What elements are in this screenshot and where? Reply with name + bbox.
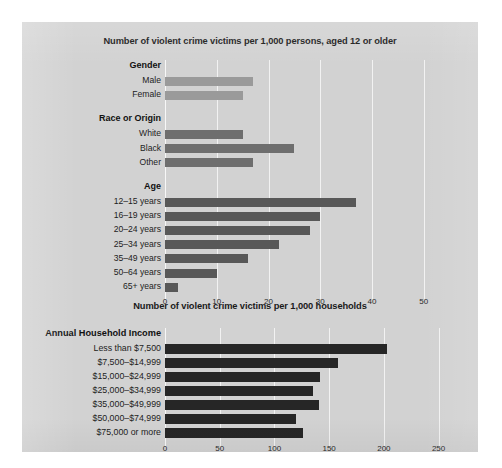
bars-bottom bbox=[165, 328, 455, 443]
bar bbox=[165, 372, 320, 382]
bar bbox=[165, 358, 338, 368]
category-label: Male bbox=[142, 75, 161, 85]
category-label: Other bbox=[140, 157, 162, 167]
x-tick-0: 0 bbox=[163, 444, 167, 453]
group-heading-age: Age bbox=[144, 181, 161, 191]
bar bbox=[165, 344, 387, 354]
x-tick-150: 150 bbox=[322, 444, 335, 453]
category-label: $50,000–$74,999 bbox=[93, 413, 162, 423]
category-label: 25–34 years bbox=[114, 239, 161, 249]
chart-victims-per-persons: Number of violent crime victims per 1,00… bbox=[22, 22, 478, 290]
category-label: $35,000–$49,999 bbox=[93, 399, 162, 409]
bars-top bbox=[165, 60, 460, 297]
category-labels-top: GenderMaleFemaleRace or OriginWhiteBlack… bbox=[22, 60, 161, 265]
chart-title-households: Number of violent crime victims per 1,00… bbox=[22, 301, 478, 311]
plot-area-top: 01020304050 bbox=[165, 60, 460, 311]
group-heading-annual-household-income: Annual Household Income bbox=[45, 328, 161, 338]
category-label: 50–64 years bbox=[114, 267, 161, 277]
category-label: Less than $7,500 bbox=[94, 343, 162, 353]
chart-title-persons: Number of violent crime victims per 1,00… bbox=[22, 36, 478, 46]
category-label: Black bbox=[140, 143, 161, 153]
category-label: Female bbox=[132, 89, 161, 99]
bar bbox=[165, 77, 253, 86]
bar bbox=[165, 400, 319, 410]
chart-panel: Number of violent crime victims per 1,00… bbox=[22, 22, 478, 452]
bar bbox=[165, 226, 310, 235]
x-tick-100: 100 bbox=[268, 444, 281, 453]
x-tick-200: 200 bbox=[377, 444, 390, 453]
group-heading-race-or-origin: Race or Origin bbox=[99, 113, 161, 123]
bar bbox=[165, 158, 253, 167]
chart-victims-per-households: Number of violent crime victims per 1,00… bbox=[22, 290, 478, 452]
group-heading-gender: Gender bbox=[129, 60, 161, 70]
bar bbox=[165, 240, 279, 249]
category-label: $7,500–$14,999 bbox=[97, 357, 161, 367]
category-label: $75,000 or more bbox=[96, 427, 161, 437]
bar bbox=[165, 386, 313, 396]
category-label: 35–49 years bbox=[114, 253, 161, 263]
bar bbox=[165, 254, 248, 263]
category-label: $15,000–$24,999 bbox=[93, 371, 162, 381]
category-label: $25,000–$34,999 bbox=[93, 385, 162, 395]
bar bbox=[165, 198, 356, 207]
bar bbox=[165, 91, 243, 100]
bar bbox=[165, 130, 243, 139]
category-labels-bottom: Annual Household IncomeLess than $7,500$… bbox=[22, 328, 161, 428]
category-label: White bbox=[139, 128, 161, 138]
bar bbox=[165, 414, 296, 424]
x-tick-50: 50 bbox=[215, 444, 224, 453]
bar bbox=[165, 212, 320, 221]
plot-area-bottom: 050100150200250 bbox=[165, 328, 455, 458]
x-tick-250: 250 bbox=[432, 444, 445, 453]
category-label: 12–15 years bbox=[114, 196, 161, 206]
bar bbox=[165, 269, 217, 278]
figure-root: Number of violent crime victims per 1,00… bbox=[0, 0, 502, 468]
category-label: 16–19 years bbox=[114, 210, 161, 220]
category-label: 20–24 years bbox=[114, 224, 161, 234]
bar bbox=[165, 144, 294, 153]
bar bbox=[165, 428, 303, 438]
x-axis-bottom: 050100150200250 bbox=[165, 444, 455, 458]
